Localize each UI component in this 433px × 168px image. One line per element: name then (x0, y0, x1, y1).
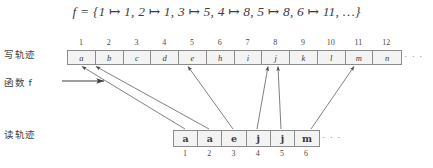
write-cell: k (290, 51, 318, 64)
write-index-9: 9 (289, 38, 317, 47)
read-index-3: 3 (221, 149, 245, 158)
read-index-1: 1 (173, 149, 197, 158)
read-track-label: 读轨迹 (4, 127, 36, 141)
read-cell: a (198, 131, 222, 146)
read-index-6: 6 (294, 149, 318, 158)
map-arrow-4-to-8 (257, 67, 268, 130)
write-index-4: 4 (150, 38, 178, 47)
write-cell: m (346, 51, 374, 64)
write-cell: j (262, 51, 290, 64)
write-index-5: 5 (178, 38, 206, 47)
write-cell: h (207, 51, 235, 64)
tape-mapping-figure: f = {1 ↦ 1, 2 ↦ 1, 3 ↦ 5, 4 ↦ 8, 5 ↦ 8, … (0, 0, 433, 168)
map-arrow-2-to-1 (96, 67, 209, 130)
write-index-8: 8 (261, 38, 289, 47)
read-index-2: 2 (197, 149, 221, 158)
read-cell: e (222, 131, 246, 146)
write-index-10: 10 (317, 38, 345, 47)
read-index-5: 5 (270, 149, 294, 158)
read-cell: j (247, 131, 271, 146)
write-cell: d (151, 51, 179, 64)
read-tape: a a e j j m (173, 130, 320, 147)
map-arrow-1-to-1 (82, 67, 185, 130)
write-cell: c (124, 51, 152, 64)
write-index-11: 11 (345, 38, 373, 47)
write-tape-ellipsis: · · · (404, 51, 424, 61)
function-label: 函数 f (4, 75, 32, 89)
write-index-2: 2 (95, 38, 123, 47)
write-cell: l (318, 51, 346, 64)
write-cell: e (179, 51, 207, 64)
write-index-12: 12 (372, 38, 400, 47)
map-arrow-6-to-11 (311, 67, 354, 130)
write-cell: a (68, 51, 96, 64)
write-index-6: 6 (206, 38, 234, 47)
read-cell: j (271, 131, 295, 146)
read-cell: m (295, 131, 319, 146)
read-cell: a (174, 131, 198, 146)
write-cell: i (235, 51, 263, 64)
write-track-label: 写轨迹 (4, 47, 36, 61)
write-tape: a b c d e h i j k l m n (67, 50, 402, 65)
map-arrow-3-to-5 (188, 67, 233, 130)
map-arrow-5-to-8 (278, 67, 281, 130)
write-cell: n (373, 51, 401, 64)
read-tape-ellipsis: · · · (322, 132, 342, 142)
read-index-4: 4 (246, 149, 270, 158)
write-cell: b (96, 51, 124, 64)
write-index-3: 3 (123, 38, 151, 47)
write-index-1: 1 (67, 38, 95, 47)
write-index-7: 7 (234, 38, 262, 47)
function-formula: f = {1 ↦ 1, 2 ↦ 1, 3 ↦ 5, 4 ↦ 8, 5 ↦ 8, … (0, 3, 433, 20)
